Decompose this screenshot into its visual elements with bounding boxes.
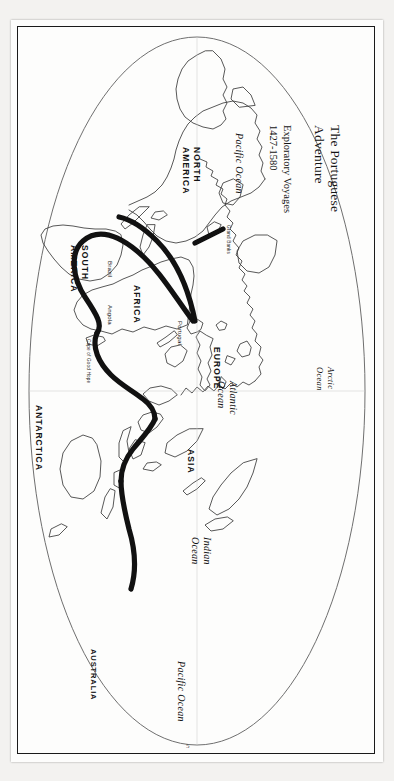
place-label-brazil: Brazil (106, 261, 113, 277)
coast-arabia (165, 345, 187, 367)
coast-mediterranean (196, 331, 213, 391)
coast-new-zealand (49, 524, 67, 537)
coast-philippines (143, 462, 161, 471)
voyage-routes (74, 217, 223, 589)
continent-label-south-america-line-2: AMERICA (68, 245, 78, 292)
rotated-map-canvas: The Portuguese Adventure Exploratory Voy… (21, 29, 373, 753)
continent-label-australia: AUSTRALIA (89, 649, 97, 700)
scanned-map-page: The Portuguese Adventure Exploratory Voy… (0, 0, 394, 781)
map-title-line-2: Adventure (312, 125, 327, 184)
continent-label-africa: AFRICA (131, 285, 141, 324)
route-india-to-malacca (121, 419, 155, 481)
coast-florida (151, 211, 167, 220)
ocean-label-arctic-line-1: Arctic (325, 367, 335, 389)
coast-baltic (225, 356, 235, 365)
continent-label-north-america-line-2: AMERICA (180, 147, 190, 194)
ocean-label-pacific-top: Pacific Ocean (234, 133, 245, 194)
page-number-mark: 5 (186, 742, 190, 750)
coast-china-east (165, 429, 203, 457)
coast-japan (183, 478, 205, 495)
coast-eurasia (200, 159, 263, 381)
route-pacific-crossing (121, 481, 135, 589)
coast-red-sea (157, 331, 177, 347)
route-grand-banks (195, 229, 223, 243)
continent-label-south-america-line-1: SOUTH (79, 245, 89, 280)
map-subtitle-line-2: 1427-1580 (267, 125, 279, 171)
place-label-grand-banks: Grand Banks (226, 225, 231, 254)
continent-label-europe: EUROPE (211, 347, 221, 390)
place-label-cape-of-good-hope: Cape of Good Hope (86, 339, 91, 383)
continent-label-asia: ASIA (185, 449, 195, 474)
coast-siberia-east (209, 459, 257, 515)
coast-kamchatka (205, 517, 233, 531)
route-cape-to-india (95, 333, 155, 419)
place-label-portugal: Portugal (176, 321, 183, 345)
coast-australia (60, 435, 101, 499)
coast-british-isles (216, 321, 227, 330)
coast-new-guinea (101, 489, 115, 519)
ocean-label-indian-line-1: Indian (202, 537, 213, 565)
ocean-label-arctic-line-2: Ocean (314, 367, 324, 391)
coast-antarctica (176, 51, 227, 129)
map-title-line-1: The Portuguese (328, 125, 343, 212)
continent-label-antarctica: ANTARCTICA (33, 405, 43, 471)
ocean-label-pacific-bottom: Pacific Ocean (176, 661, 187, 722)
continent-label-north-america-line-1: NORTH (191, 147, 201, 183)
coast-greenland (237, 235, 277, 273)
map-inner: The Portuguese Adventure Exploratory Voy… (21, 29, 373, 753)
place-label-angola: Angola (106, 305, 113, 325)
map-subtitle-line-1: Exploratory Voyages (281, 125, 293, 213)
ocean-label-atlantic-line-1: Atlantic (228, 381, 239, 415)
ocean-label-indian-line-2: Ocean (190, 537, 201, 565)
coast-scandinavia (237, 341, 251, 357)
